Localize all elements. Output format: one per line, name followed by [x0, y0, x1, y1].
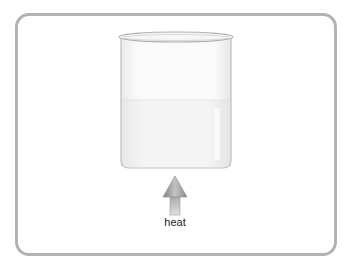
liquid	[122, 100, 230, 167]
heat-label: heat	[150, 216, 200, 228]
beaker	[119, 32, 233, 168]
heat-arrow-icon	[163, 176, 187, 215]
